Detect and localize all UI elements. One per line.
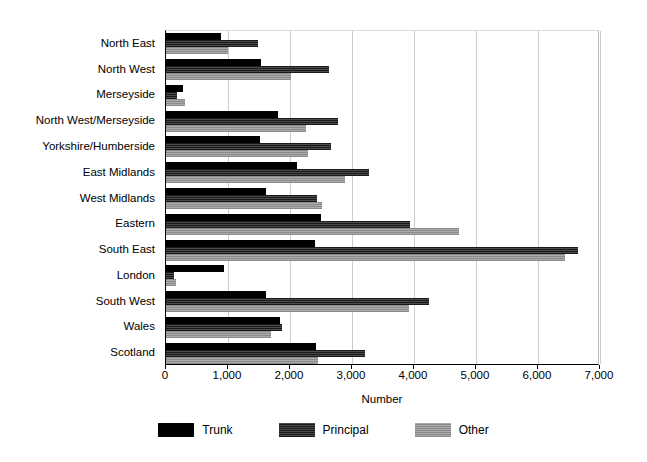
- bar-group: [166, 160, 598, 186]
- bar-principal: [166, 40, 258, 47]
- y-axis-label: North West/Merseyside: [36, 114, 155, 126]
- bar-principal: [166, 247, 578, 254]
- bar-other: [166, 331, 271, 338]
- bar-principal: [166, 66, 329, 73]
- bar-group: [166, 31, 598, 57]
- bar-other: [166, 150, 308, 157]
- bar-trunk: [166, 136, 260, 143]
- x-axis-tick-label: 2,000: [275, 368, 304, 382]
- bar-other: [166, 125, 306, 132]
- bar-trunk: [166, 162, 297, 169]
- bar-trunk: [166, 343, 316, 350]
- bar-other: [166, 305, 409, 312]
- legend-swatch-other: [415, 423, 451, 437]
- bar-other: [166, 254, 565, 261]
- bar-other: [166, 202, 322, 209]
- bar-group: [166, 186, 598, 212]
- bar-group: [166, 340, 598, 366]
- y-axis-label: North East: [101, 37, 155, 49]
- bar-trunk: [166, 33, 221, 40]
- bar-principal: [166, 118, 338, 125]
- x-axis-tick-mark: [537, 365, 538, 369]
- bar-group: [166, 314, 598, 340]
- x-axis-tick-mark: [227, 365, 228, 369]
- legend-item: Principal: [279, 423, 369, 437]
- bar-principal: [166, 169, 369, 176]
- y-axis-label: East Midlands: [83, 166, 155, 178]
- x-axis-tick-label: 7,000: [585, 368, 614, 382]
- bar-trunk: [166, 85, 183, 92]
- bar-trunk: [166, 265, 224, 272]
- y-axis-label: West Midlands: [80, 192, 155, 204]
- y-axis-label: South West: [96, 295, 155, 307]
- x-axis-tick-label: 5,000: [461, 368, 490, 382]
- y-axis-label: South East: [99, 243, 155, 255]
- legend-label: Principal: [323, 423, 369, 437]
- x-axis-tick-label: 1,000: [213, 368, 242, 382]
- legend-label: Other: [459, 423, 489, 437]
- bar-group: [166, 134, 598, 160]
- bar-principal: [166, 195, 317, 202]
- x-axis-tick-mark: [599, 365, 600, 369]
- legend-item: Trunk: [158, 423, 232, 437]
- bar-principal: [166, 324, 282, 331]
- bar-principal: [166, 92, 177, 99]
- x-axis-tick-label: 6,000: [523, 368, 552, 382]
- x-axis-title: Number: [165, 392, 599, 406]
- x-axis-tick-label: 4,000: [399, 368, 428, 382]
- bar-other: [166, 228, 459, 235]
- y-axis-label: London: [117, 269, 155, 281]
- bar-chart: North EastNorth WestMerseysideNorth West…: [0, 0, 647, 462]
- legend-label: Trunk: [202, 423, 232, 437]
- legend-swatch-principal: [279, 423, 315, 437]
- bar-other: [166, 99, 185, 106]
- bar-principal: [166, 272, 174, 279]
- gridline: [600, 31, 601, 364]
- bar-group: [166, 289, 598, 315]
- bar-trunk: [166, 59, 261, 66]
- x-axis-ticks: 01,0002,0003,0004,0005,0006,0007,000: [0, 368, 647, 384]
- legend-swatch-trunk: [158, 423, 194, 437]
- y-axis-label: Merseyside: [96, 88, 155, 100]
- bar-principal: [166, 298, 429, 305]
- y-axis-labels: North EastNorth WestMerseysideNorth West…: [0, 30, 160, 365]
- bar-group: [166, 237, 598, 263]
- bar-other: [166, 357, 318, 364]
- bar-principal: [166, 221, 410, 228]
- bar-other: [166, 279, 176, 286]
- x-axis-tick-mark: [475, 365, 476, 369]
- y-axis-label: North West: [98, 63, 155, 75]
- plot-area: [165, 30, 599, 365]
- chart-legend: TrunkPrincipalOther: [0, 423, 647, 437]
- y-axis-label: Yorkshire/Humberside: [42, 140, 155, 152]
- bar-trunk: [166, 317, 280, 324]
- x-axis-tick-mark: [413, 365, 414, 369]
- bar-other: [166, 47, 228, 54]
- y-axis-label: Eastern: [115, 217, 155, 229]
- bar-group: [166, 83, 598, 109]
- bar-principal: [166, 350, 365, 357]
- bar-trunk: [166, 188, 266, 195]
- bar-trunk: [166, 240, 315, 247]
- bar-other: [166, 176, 345, 183]
- bar-trunk: [166, 111, 278, 118]
- x-axis-tick-mark: [165, 365, 166, 369]
- bar-principal: [166, 143, 331, 150]
- bar-group: [166, 57, 598, 83]
- x-axis-tick-label: 0: [162, 368, 168, 382]
- y-axis-label: Wales: [123, 320, 155, 332]
- bar-group: [166, 108, 598, 134]
- x-axis-tick-mark: [289, 365, 290, 369]
- bar-trunk: [166, 214, 321, 221]
- bar-group: [166, 263, 598, 289]
- y-axis-label: Scotland: [110, 346, 155, 358]
- x-axis-tick-label: 3,000: [337, 368, 366, 382]
- x-axis-tick-mark: [351, 365, 352, 369]
- bar-trunk: [166, 291, 266, 298]
- bar-group: [166, 211, 598, 237]
- legend-item: Other: [415, 423, 489, 437]
- bar-other: [166, 73, 291, 80]
